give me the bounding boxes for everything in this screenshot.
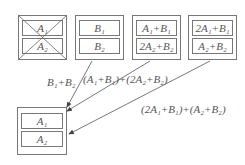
slot-d2: A₂+B₂	[192, 41, 233, 52]
slot-b2: B₂	[79, 41, 120, 52]
result-slot-1: A₁	[21, 116, 63, 127]
slot-a2: A₂	[22, 41, 63, 52]
slot-d1: 2A₁+B₁	[192, 23, 233, 34]
arrow-label-c: (A₁+B₁)+(2A₂+B₂)	[83, 74, 168, 85]
result-slot-2: A₂	[21, 134, 63, 145]
slot-a1: A₁	[22, 23, 63, 34]
arrow-label-b: B₁+B₂	[47, 77, 76, 88]
slot-c2: 2A₂+B₂	[136, 41, 177, 52]
arrow-from-c	[67, 61, 150, 111]
slot-c1: A₁+B₁	[136, 23, 177, 34]
slot-b1: B₁	[79, 23, 120, 34]
arrow-label-d: (2A₁+B₁)+(A₂+B₂)	[141, 104, 226, 115]
